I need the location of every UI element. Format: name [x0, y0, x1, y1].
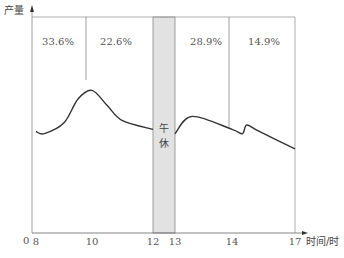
segment-share-label: 28.9% [190, 36, 222, 47]
x-tick-label: 8 [33, 236, 39, 247]
x-tick-label: 12 [147, 236, 160, 247]
y-axis-label: 产量 [4, 4, 24, 16]
lunch-break-label: 休 [159, 138, 169, 149]
x-tick-label: 17 [289, 236, 302, 247]
y-axis-arrow-icon [30, 5, 34, 12]
x-axis-arrow-icon [302, 231, 308, 235]
segment-share-label: 22.6% [100, 36, 132, 47]
morning-production-curve [36, 90, 153, 134]
x-tick-label: 14 [226, 236, 239, 247]
afternoon-production-curve [175, 116, 295, 148]
production-curve-diagram: 33.6%22.6%28.9%14.9% 81012131417 产量 时间/时… [0, 0, 344, 258]
segment-share-label: 33.6% [42, 36, 74, 47]
origin-label: 0 [23, 235, 29, 246]
lunch-break-label: 午 [159, 122, 169, 134]
x-tick-label: 10 [86, 236, 99, 247]
x-tick-label: 13 [169, 236, 182, 247]
segment-share-label: 14.9% [248, 36, 280, 47]
x-axis-label: 时间/时 [306, 235, 339, 247]
